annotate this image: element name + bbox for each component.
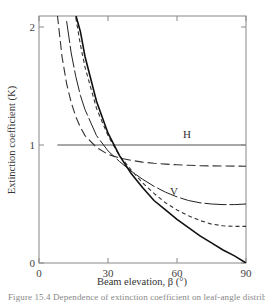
x-axis-title: Beam elevation, β (°) xyxy=(97,276,188,288)
curve-1 xyxy=(57,15,246,166)
axis-ticks xyxy=(39,16,246,263)
curves xyxy=(57,15,246,263)
plot-frame xyxy=(39,16,246,263)
x-tick-label: 90 xyxy=(241,267,253,279)
curve-4 xyxy=(76,15,246,263)
curve-2 xyxy=(67,21,246,205)
extinction-chart: 0306090012 Beam elevation, β (°) Extinct… xyxy=(0,0,265,306)
curve-label-v: V xyxy=(170,185,178,197)
curve-label-h: H xyxy=(183,128,191,140)
y-tick-label: 2 xyxy=(30,21,36,33)
y-tick-label: 1 xyxy=(30,139,36,151)
curve-3 xyxy=(76,18,246,227)
y-tick-label: 0 xyxy=(30,257,36,269)
y-axis-title: Extinction coefficient (K) xyxy=(6,85,18,194)
figure-caption: Figure 15.4 Dependence of extinction coe… xyxy=(8,292,265,306)
x-tick-label: 0 xyxy=(36,267,42,279)
